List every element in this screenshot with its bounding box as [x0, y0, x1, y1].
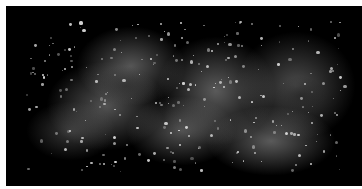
bright-speck [235, 22, 236, 23]
bright-speck [69, 23, 72, 26]
bright-speck [219, 81, 222, 84]
bright-speck [217, 127, 219, 129]
bright-speck [30, 58, 31, 59]
bright-speck [153, 62, 155, 64]
bright-speck [73, 108, 75, 110]
bright-speck [70, 55, 72, 57]
bright-speck [103, 163, 105, 165]
bright-speck [47, 74, 49, 76]
bright-speck [122, 79, 125, 82]
bright-speck [97, 74, 98, 75]
bright-speck [40, 139, 43, 142]
bright-speck [160, 104, 163, 107]
bright-speck [228, 43, 231, 46]
bright-speck [81, 137, 84, 140]
bright-speck [105, 93, 106, 94]
bright-speck [160, 38, 162, 40]
bright-speck [292, 48, 294, 50]
bright-speck [182, 82, 184, 84]
bright-speck [114, 161, 117, 164]
bright-speck [339, 76, 342, 79]
bright-speck [120, 171, 121, 172]
bright-speck [99, 163, 101, 165]
bright-speck [187, 88, 190, 91]
bright-speck [250, 136, 252, 138]
bright-speck [334, 37, 336, 39]
bright-speck [226, 34, 228, 36]
bright-speck [76, 111, 77, 112]
bright-speck [203, 25, 205, 27]
bright-speck [34, 73, 36, 75]
bright-speck [261, 161, 262, 162]
bright-speck [32, 67, 35, 70]
bright-speck [223, 86, 225, 88]
bright-speck [90, 162, 92, 164]
bright-speck [304, 83, 306, 85]
bright-speck [49, 54, 50, 55]
bright-speck [300, 97, 303, 100]
bright-speck [281, 125, 282, 126]
bright-speck [163, 159, 164, 160]
image-frame [6, 6, 362, 186]
bright-speck [80, 140, 82, 142]
bright-speck [336, 155, 338, 157]
bright-speck [104, 99, 106, 101]
bright-speck [239, 21, 241, 23]
bright-speck [52, 43, 53, 44]
bright-speck [49, 45, 50, 46]
bright-speck [113, 165, 115, 167]
bright-speck [114, 109, 115, 110]
bright-speck [68, 48, 71, 51]
bright-speck [124, 157, 126, 159]
bright-speck [74, 46, 76, 48]
bright-speck [65, 88, 68, 91]
bright-speck [136, 116, 137, 117]
bright-speck [254, 152, 256, 154]
bright-speck [175, 59, 178, 62]
bright-speck [310, 163, 312, 165]
bright-speck [251, 101, 252, 102]
bright-speck [41, 83, 44, 86]
bright-speck [339, 22, 340, 23]
bright-speck [86, 67, 87, 68]
bright-speck [310, 28, 313, 31]
bright-speck [126, 144, 128, 146]
bright-speck [255, 117, 257, 119]
bright-speck [302, 106, 304, 108]
bright-speck [167, 78, 169, 80]
bright-speck [236, 32, 238, 34]
bright-speck [295, 164, 297, 166]
bright-speck [251, 23, 252, 24]
bright-speck [173, 166, 176, 169]
bright-speck [44, 60, 46, 62]
bright-speck [103, 103, 106, 106]
bright-speck [198, 63, 200, 65]
bright-speck [293, 133, 296, 136]
bright-speck [243, 160, 244, 161]
bright-speck [147, 159, 150, 162]
bright-speck [80, 27, 81, 28]
bright-speck [160, 23, 162, 25]
bright-speck [316, 51, 319, 54]
bright-speck [279, 25, 281, 27]
bright-speck [308, 40, 309, 41]
bright-speck [179, 119, 181, 121]
bright-speck [173, 160, 176, 163]
bright-speck [27, 168, 30, 171]
bright-speck [179, 168, 182, 171]
bright-speck [339, 169, 341, 171]
bright-speck [59, 89, 62, 92]
bright-speck [148, 35, 150, 37]
bright-speck [164, 122, 167, 125]
bright-speck [335, 141, 338, 144]
bright-speck [43, 76, 45, 78]
bright-speck [42, 74, 44, 76]
bright-speck [181, 59, 183, 61]
bright-speck [181, 37, 183, 39]
bright-speck [260, 37, 263, 40]
bright-speck [322, 82, 325, 85]
bright-speck [64, 68, 66, 70]
texture-blob [126, 96, 236, 166]
bright-speck [81, 169, 83, 171]
bright-speck [159, 102, 161, 104]
